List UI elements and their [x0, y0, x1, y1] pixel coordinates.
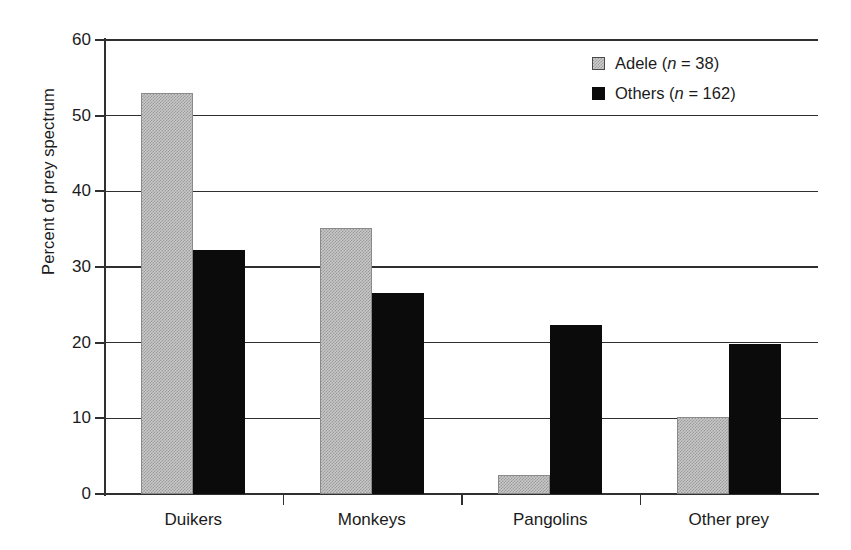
- legend-swatch-others-icon: [592, 87, 605, 100]
- x-axis-label-pangolins: Pangolins: [513, 510, 588, 530]
- x-axis-label-other-prey: Other prey: [689, 510, 769, 530]
- x-axis-label-duikers: Duikers: [164, 510, 222, 530]
- y-tick-label: 10: [72, 408, 91, 428]
- plot-area: 0102030405060: [104, 40, 818, 494]
- x-tick-mark: [283, 494, 285, 505]
- bar-chart-figure: Percent of prey spectrum 0102030405060 D…: [0, 0, 851, 550]
- y-tick-label: 50: [72, 106, 91, 126]
- bar-others-other-prey: [729, 344, 781, 494]
- legend: Adele (n = 38) Others (n = 162): [592, 48, 818, 108]
- bars-group: [104, 40, 818, 494]
- bar-adele-other-prey: [677, 417, 729, 494]
- bar-others-pangolins: [550, 325, 602, 494]
- y-tick-label: 30: [72, 257, 91, 277]
- legend-swatch-adele-icon: [592, 57, 605, 70]
- legend-label-others: Others (n = 162): [615, 84, 736, 103]
- bar-others-monkeys: [372, 293, 424, 494]
- y-tick-label: 0: [82, 484, 91, 504]
- bar-others-duikers: [193, 250, 245, 494]
- x-tick-mark: [640, 494, 642, 505]
- bar-adele-pangolins: [498, 475, 550, 494]
- x-tick-mark: [461, 494, 463, 505]
- y-tick-label: 20: [72, 333, 91, 353]
- x-axis-label-monkeys: Monkeys: [338, 510, 406, 530]
- bar-adele-monkeys: [320, 228, 372, 494]
- legend-item-others: Others (n = 162): [592, 78, 818, 108]
- y-tick-label: 40: [72, 181, 91, 201]
- y-tick-label: 60: [72, 30, 91, 50]
- legend-label-adele: Adele (n = 38): [615, 54, 719, 73]
- y-axis-title: Percent of prey spectrum: [39, 72, 58, 292]
- legend-item-adele: Adele (n = 38): [592, 48, 818, 78]
- bar-adele-duikers: [141, 93, 193, 494]
